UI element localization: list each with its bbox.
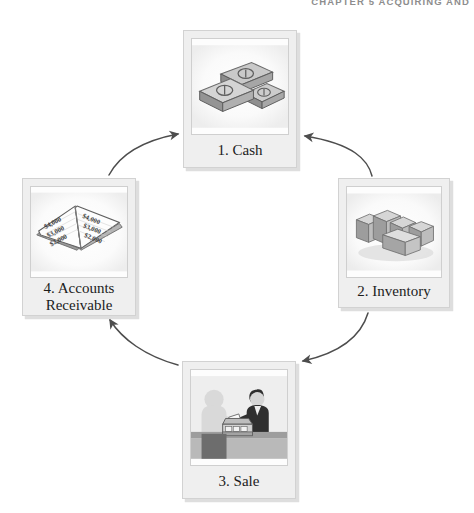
cycle-stage-ar-label-line2: Receivable	[44, 297, 115, 314]
cycle-stage-accounts-receivable[interactable]: $4,000 $3,000 $2,000 $4,000 $3,000 $2,00…	[22, 178, 136, 316]
arrow-ar-to-cash	[109, 134, 178, 175]
running-head: CHAPTER 5 ACQUIRING AND	[311, 0, 470, 8]
cycle-stage-cash-label-line1: 1. Cash	[218, 142, 263, 159]
cash-register-icon	[223, 418, 253, 435]
cycle-stage-inventory-label: 2. Inventory	[355, 278, 432, 307]
money-stacks-icon	[192, 39, 288, 134]
cash-illustration-plate	[191, 38, 289, 135]
sale-counter-icon	[191, 370, 287, 465]
cycle-stage-accounts-receivable-label: 4. Accounts Receivable	[42, 278, 117, 318]
arrow-sale-to-ar	[110, 320, 178, 365]
cycle-stage-ar-label-line1: 4. Accounts	[44, 280, 115, 297]
arrow-inventory-to-sale	[303, 313, 368, 361]
cycle-stage-sale-label-line1: 3. Sale	[219, 473, 260, 490]
sale-illustration-plate	[190, 369, 288, 466]
cycle-stage-sale[interactable]: 3. Sale	[182, 361, 296, 499]
accounts-receivable-illustration-plate: $4,000 $3,000 $2,000 $4,000 $3,000 $2,00…	[30, 186, 128, 278]
cycle-stage-inventory-label-line1: 2. Inventory	[357, 283, 430, 300]
ledger-book-icon: $4,000 $3,000 $2,000 $4,000 $3,000 $2,00…	[31, 187, 127, 277]
cycle-stage-inventory[interactable]: 2. Inventory	[338, 178, 450, 308]
cycle-stage-cash[interactable]: 1. Cash	[183, 30, 297, 168]
cycle-stage-cash-label: 1. Cash	[216, 135, 265, 167]
arrow-cash-to-inventory	[305, 136, 372, 176]
stacked-boxes-icon	[347, 187, 441, 277]
inventory-illustration-plate	[346, 186, 442, 278]
cycle-stage-sale-label: 3. Sale	[217, 466, 262, 498]
